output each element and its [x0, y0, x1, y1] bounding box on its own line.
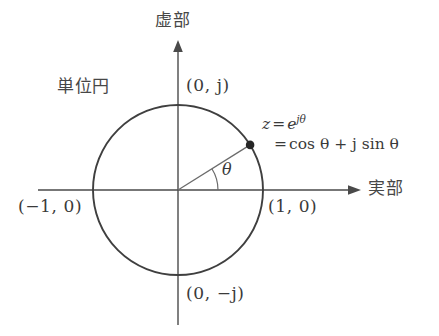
point-z-marker	[246, 141, 255, 150]
radius-vector-line	[178, 145, 250, 190]
unit-circle-label: 単位円	[57, 78, 110, 95]
theta-label: θ	[222, 162, 232, 178]
equation-lhs: z	[262, 115, 270, 133]
theta-arc	[212, 169, 218, 190]
point-label-bottom: (0, −j)	[186, 285, 245, 302]
imaginary-axis-label: 虚部	[155, 12, 190, 29]
equation-base: e	[287, 115, 296, 133]
equation-line-2: =cos θ + j sin θ	[274, 135, 399, 155]
equation-rhs: cos θ + j sin θ	[289, 135, 399, 153]
equation-line-1: z=ejθ	[262, 113, 399, 135]
imaginary-axis-arrowhead	[173, 40, 183, 52]
equation-exponent: jθ	[296, 113, 306, 125]
unit-circle-figure: 虚部 実部 単位円 (0, j) (0, −j) (−1, 0) (1, 0) …	[0, 0, 439, 336]
real-axis-label: 実部	[368, 180, 403, 197]
equation-annotation: z=ejθ =cos θ + j sin θ	[262, 113, 399, 155]
real-axis-arrowhead	[348, 185, 361, 195]
point-label-top: (0, j)	[186, 77, 230, 94]
equation-equals-2: =	[274, 135, 287, 153]
point-label-left: (−1, 0)	[18, 198, 82, 215]
point-label-right: (1, 0)	[268, 198, 317, 215]
equation-equals-1: =	[272, 115, 285, 133]
